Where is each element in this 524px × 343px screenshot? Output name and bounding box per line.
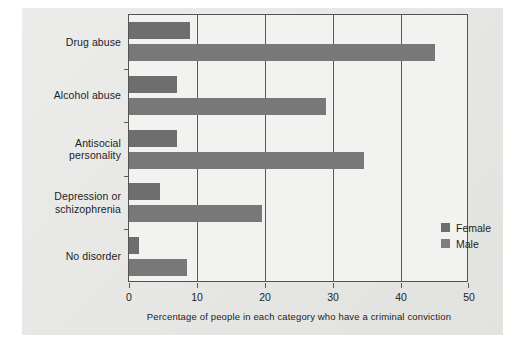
category-axis-labels: Drug abuseAlcohol abuseAntisocialpersona…	[3, 15, 121, 283]
bar	[129, 22, 190, 39]
bar	[129, 152, 364, 169]
y-axis-tick	[124, 176, 129, 177]
x-axis-tick	[333, 283, 334, 288]
bar	[129, 205, 262, 222]
x-axis-tick-label: 50	[449, 291, 489, 303]
category-label-line: schizophrenia	[55, 203, 121, 215]
category-label-line: Drug abuse	[66, 36, 121, 48]
x-axis-title: Percentage of people in each category wh…	[129, 311, 469, 322]
legend-label: Female	[456, 222, 491, 234]
legend: FemaleMale	[441, 222, 491, 254]
category-label: No disorder	[3, 250, 121, 263]
bar	[129, 44, 435, 61]
x-axis-tick-label: 10	[177, 291, 217, 303]
category-label-line: No disorder	[66, 250, 121, 262]
x-axis-tick	[401, 283, 402, 288]
figure: Drug abuseAlcohol abuseAntisocialpersona…	[0, 0, 524, 343]
bar	[129, 98, 326, 115]
x-axis-tick-label: 40	[381, 291, 421, 303]
x-axis-tick	[265, 283, 266, 288]
category-label-line: Antisocial	[75, 137, 121, 149]
x-axis-tick-label: 20	[245, 291, 285, 303]
x-axis-tick	[129, 283, 130, 288]
legend-item: Female	[441, 222, 491, 233]
category-label: Alcohol abuse	[3, 89, 121, 102]
y-axis-tick	[124, 122, 129, 123]
legend-label: Male	[456, 238, 479, 250]
bar	[129, 183, 160, 200]
x-axis-tick	[468, 283, 469, 288]
category-label-line: Depression or	[54, 190, 121, 202]
category-label-line: personality	[69, 149, 121, 161]
legend-swatch	[441, 239, 450, 248]
x-axis-tick-label: 0	[109, 291, 149, 303]
bar	[129, 237, 139, 254]
bar	[129, 130, 177, 147]
y-axis-tick	[124, 69, 129, 70]
plot-area: Drug abuseAlcohol abuseAntisocialpersona…	[128, 14, 468, 282]
legend-item: Male	[441, 238, 491, 249]
legend-swatch	[441, 223, 450, 232]
bar	[129, 76, 177, 93]
x-axis-tick	[197, 283, 198, 288]
x-axis-tick-label: 30	[313, 291, 353, 303]
category-label: Antisocialpersonality	[3, 137, 121, 162]
bar	[129, 259, 187, 276]
category-label-line: Alcohol abuse	[54, 89, 121, 101]
chart-panel: Drug abuseAlcohol abuseAntisocialpersona…	[22, 8, 503, 335]
y-axis-tick	[124, 229, 129, 230]
category-label: Depression orschizophrenia	[3, 190, 121, 215]
category-label: Drug abuse	[3, 36, 121, 49]
